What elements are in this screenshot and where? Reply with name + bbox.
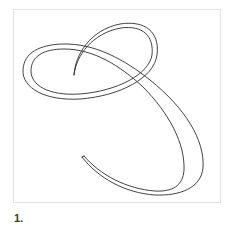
figure-caption: 1. — [14, 212, 23, 224]
stroke-tail-cap — [82, 156, 84, 157]
stroke-outer-edge — [23, 23, 203, 195]
stroke-inner-edge — [31, 28, 184, 192]
calligraphic-stroke-illustration — [0, 0, 239, 235]
